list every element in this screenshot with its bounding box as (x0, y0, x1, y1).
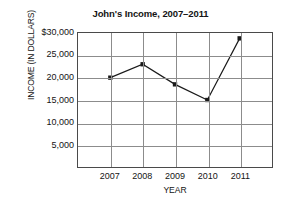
horizontal-gridline (78, 56, 272, 57)
x-axis-tick-label: 2010 (198, 171, 218, 181)
chart-figure: John's Income, 2007–2011 INCOME (IN DOLL… (0, 0, 301, 204)
y-axis-tick-label: 15,000 (24, 96, 74, 105)
x-axis-tick-label: 2007 (100, 171, 120, 181)
y-axis-tick-labels: $30,00025,00020,00015,00010,0005,000 (24, 28, 74, 168)
y-axis-tick-label: 25,000 (24, 50, 74, 59)
series-polyline (110, 38, 239, 100)
vertical-gridline (241, 33, 242, 167)
vertical-gridline (143, 33, 144, 167)
x-axis-title: YEAR (77, 185, 273, 195)
vertical-gridline (111, 33, 112, 167)
y-axis-tick-label: 5,000 (24, 141, 74, 150)
vertical-gridline (209, 33, 210, 167)
x-axis-tick-label: 2011 (231, 171, 250, 181)
x-axis-tick-label: 2008 (132, 171, 152, 181)
y-axis-tick-label: 20,000 (24, 73, 74, 82)
vertical-gridline (176, 33, 177, 167)
plot-area: 2007: 200002008: 230002009: 185002010: 1… (77, 32, 273, 168)
x-axis-tick-labels: 20072008200920102011 (77, 171, 273, 184)
horizontal-gridline (78, 78, 272, 79)
x-axis-tick-label: 2009 (165, 171, 185, 181)
horizontal-gridline (78, 101, 272, 102)
horizontal-gridline (78, 124, 272, 125)
y-axis-tick-label: $30,000 (24, 28, 74, 37)
horizontal-gridline (78, 146, 272, 147)
chart-title: John's Income, 2007–2011 (0, 8, 301, 19)
y-axis-tick-label: 10,000 (24, 118, 74, 127)
